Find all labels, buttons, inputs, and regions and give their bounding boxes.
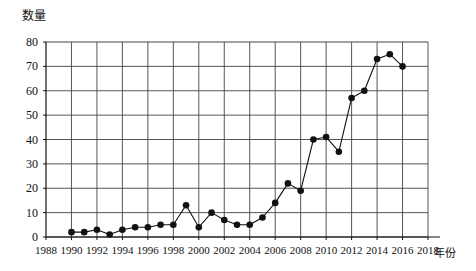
data-point-marker <box>183 202 190 209</box>
data-point-marker <box>374 56 381 63</box>
data-point-marker <box>259 214 266 221</box>
data-point-marker <box>208 209 215 216</box>
data-point-marker <box>272 200 279 207</box>
data-point-marker <box>68 229 75 236</box>
data-point-marker <box>310 136 317 143</box>
data-point-marker <box>323 134 330 141</box>
data-point-marker <box>348 95 355 102</box>
data-point-marker <box>81 229 88 236</box>
data-point-marker <box>196 224 203 231</box>
data-point-marker <box>246 222 253 229</box>
data-point-marker <box>94 226 101 233</box>
data-point-marker <box>170 222 177 229</box>
data-point-marker <box>361 87 368 94</box>
data-point-marker <box>297 187 304 194</box>
data-point-marker <box>387 51 394 58</box>
data-point-marker <box>157 222 164 229</box>
chart-plot-area <box>0 0 476 271</box>
data-point-marker <box>132 224 139 231</box>
data-point-marker <box>285 180 292 187</box>
data-point-marker <box>221 217 228 224</box>
data-line <box>71 54 402 234</box>
data-point-marker <box>119 226 126 233</box>
data-point-marker <box>145 224 152 231</box>
data-point-marker <box>336 148 343 155</box>
data-point-marker <box>106 231 113 238</box>
data-point-marker <box>234 222 241 229</box>
chart-container: 数量 年份 01020304050607080 1988199019921994… <box>0 0 476 271</box>
data-point-marker <box>399 63 406 70</box>
